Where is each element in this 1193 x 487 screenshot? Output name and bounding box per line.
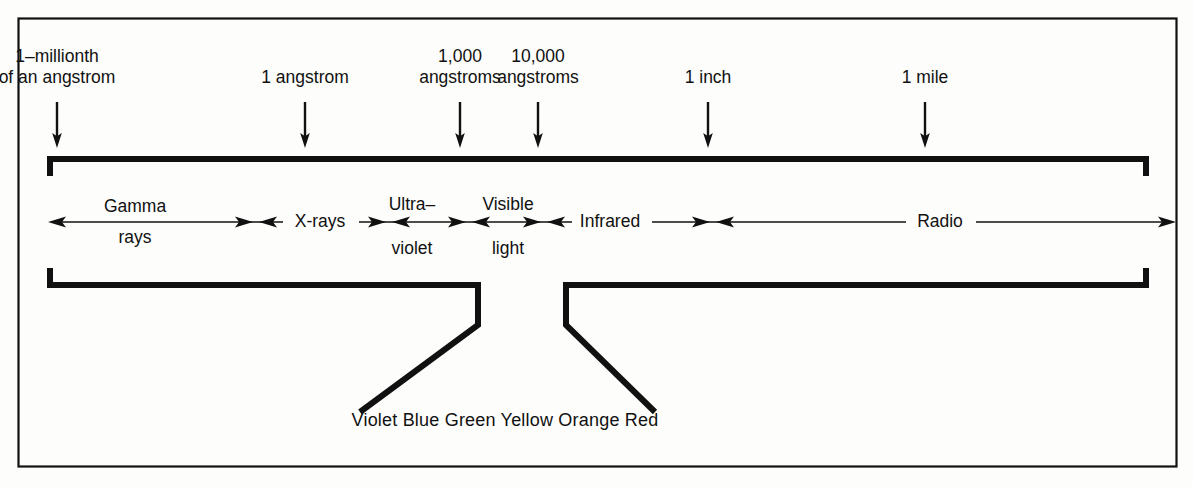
band-label-text: Radio [917,211,963,231]
visible-colors-text: Violet Blue Green Yellow Orange Red [352,410,659,430]
band-label-gamma-rays-lower: rays [118,227,151,248]
scale-label-one-mile: 1 mile [902,67,949,88]
band-label-text: X-rays [295,211,346,231]
pointer-arrow-one-mile [920,102,930,148]
scale-label-thousand-angstroms: 1,000 angstroms [419,46,501,87]
scale-label-line1: 1 angstrom [261,67,349,87]
band-label-x-rays: X-rays [295,211,346,232]
band-label-text: Gamma [104,196,166,216]
spectrum-bracket-top [50,159,1146,176]
spectrum-figure: 1–millionth of an angstrom 1 angstrom 1,… [0,0,1193,487]
visible-colors-caption: Violet Blue Green Yellow Orange Red [352,410,659,431]
pointer-arrow-one-inch [703,102,713,148]
band-label-text: Visible [482,194,533,214]
band-label-ultraviolet-upper: Ultra– [389,194,436,215]
pointer-arrow-one-angstrom [300,102,310,148]
pointer-arrow-thousand-angstroms [455,102,465,148]
scale-label-line1: 10,000 [511,46,565,66]
band-label-ultraviolet-lower: violet [392,238,433,259]
scale-pointer-arrows [52,102,930,148]
scale-label-millionth-angstrom: 1–millionth of an angstrom [0,46,115,87]
band-label-text: light [492,238,524,258]
band-label-infrared: Infrared [580,211,640,232]
pointer-arrow-ten-thousand-angstroms [533,102,543,148]
scale-label-ten-thousand-angstroms: 10,000 angstroms [497,46,579,87]
band-label-radio: Radio [917,211,963,232]
band-label-text: Ultra– [389,194,436,214]
figure-border [19,19,1177,467]
scale-label-line1: 1,000 [438,46,482,66]
pointer-arrow-millionth-angstrom [52,102,62,148]
scale-label-line1: 1 mile [902,67,949,87]
band-label-text: violet [392,238,433,258]
scale-label-line2: angstroms [497,67,579,88]
scale-label-one-inch: 1 inch [685,67,732,88]
scale-label-line1: 1–millionth [15,46,99,66]
scale-label-line2: angstroms [419,67,501,88]
band-label-visible-light-lower: light [492,238,524,259]
band-label-text: rays [118,227,151,247]
band-label-visible-light-upper: Visible [482,194,533,215]
scale-label-one-angstrom: 1 angstrom [261,67,349,88]
scale-label-line2: of an angstrom [0,67,115,88]
spectrum-bracket-bottom-left [50,268,478,412]
band-label-gamma-rays-upper: Gamma [104,196,166,217]
band-label-text: Infrared [580,211,640,231]
scale-label-line1: 1 inch [685,67,732,87]
spectrum-bracket-bottom-right [566,268,1146,412]
